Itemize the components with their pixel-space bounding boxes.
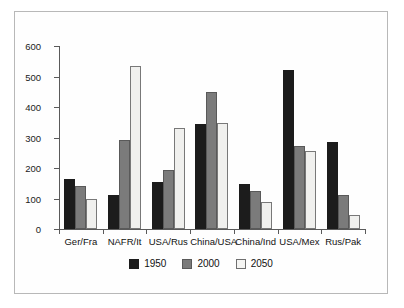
bar[interactable] <box>261 202 272 229</box>
bar[interactable] <box>349 215 360 229</box>
legend-swatch-icon <box>129 259 139 269</box>
y-tick-label-200: 200 <box>25 163 41 174</box>
chart-figure: 0100200300400500600 Ger/FraNAFR/ItUSA/Ru… <box>14 11 388 294</box>
x-axis-label-china-usa: China/USA <box>190 236 234 247</box>
x-axis-label-china-ind: China/Ind <box>234 236 278 247</box>
bars <box>108 46 141 229</box>
legend-item-2050[interactable]: 2050 <box>236 258 273 269</box>
legend-swatch-icon <box>236 259 246 269</box>
x-axis-label-nafr-it: NAFR/It <box>103 236 147 247</box>
x-tick <box>103 229 104 234</box>
y-tick-label-500: 500 <box>25 71 41 82</box>
bars <box>64 46 97 229</box>
bar-group <box>59 46 103 229</box>
y-axis-labels: 0100200300400500600 <box>7 46 41 229</box>
x-tick <box>59 229 60 234</box>
legend-swatch-icon <box>182 259 192 269</box>
bar[interactable] <box>239 184 250 229</box>
bar[interactable] <box>108 195 119 229</box>
legend-label: 2000 <box>197 258 219 269</box>
bar-group <box>146 46 190 229</box>
bar-group <box>190 46 234 229</box>
bar-group <box>234 46 278 229</box>
bar-group <box>103 46 147 229</box>
bar[interactable] <box>130 66 141 229</box>
x-tick <box>278 229 279 234</box>
x-axis-label-ger-fra: Ger/Fra <box>59 236 103 247</box>
bar[interactable] <box>86 199 97 229</box>
x-tick <box>234 229 235 234</box>
x-tick <box>365 229 366 234</box>
y-tick-label-100: 100 <box>25 193 41 204</box>
bar[interactable] <box>283 70 294 230</box>
plot-area: Ger/FraNAFR/ItUSA/RusChina/USAChina/IndU… <box>59 46 365 229</box>
y-tick-label-400: 400 <box>25 102 41 113</box>
legend-label: 1950 <box>144 258 166 269</box>
bar[interactable] <box>217 123 228 229</box>
bars <box>327 46 360 229</box>
y-tick-label-300: 300 <box>25 132 41 143</box>
bars <box>152 46 185 229</box>
bar[interactable] <box>163 170 174 229</box>
bar[interactable] <box>75 186 86 229</box>
bar[interactable] <box>250 191 261 229</box>
legend-item-2000[interactable]: 2000 <box>182 258 219 269</box>
x-axis-label-usa-mex: USA/Mex <box>278 236 322 247</box>
bar[interactable] <box>64 179 75 229</box>
y-tick-label-600: 600 <box>25 41 41 52</box>
x-axis-label-usa-rus: USA/Rus <box>146 236 190 247</box>
bar[interactable] <box>338 195 349 229</box>
bar-group <box>278 46 322 229</box>
bar[interactable] <box>206 92 217 229</box>
y-tick-label-0: 0 <box>36 224 41 235</box>
bars <box>283 46 316 229</box>
bar[interactable] <box>305 151 316 229</box>
bar[interactable] <box>174 128 185 229</box>
x-axis-line <box>59 229 365 230</box>
x-tick <box>321 229 322 234</box>
bar-group <box>321 46 365 229</box>
x-tick <box>146 229 147 234</box>
chart-legend: 195020002050 <box>15 258 387 269</box>
bar[interactable] <box>119 140 130 229</box>
legend-label: 2050 <box>251 258 273 269</box>
bar[interactable] <box>294 146 305 229</box>
bar[interactable] <box>195 124 206 229</box>
legend-item-1950[interactable]: 1950 <box>129 258 166 269</box>
bar[interactable] <box>327 142 338 229</box>
bars <box>239 46 272 229</box>
x-axis-label-rus-pak: Rus/Pak <box>321 236 365 247</box>
bar[interactable] <box>152 182 163 229</box>
x-tick <box>190 229 191 234</box>
bars <box>195 46 228 229</box>
